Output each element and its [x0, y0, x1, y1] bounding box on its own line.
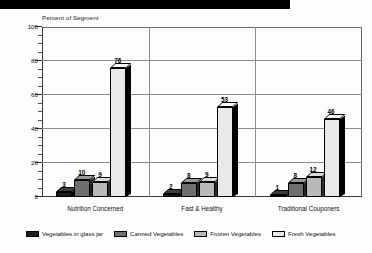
gridline: [42, 128, 362, 129]
bar-value-label: 46: [328, 108, 335, 115]
y-tick-minor: [38, 179, 42, 180]
bar-side-face: [233, 104, 238, 197]
y-tick-minor: [38, 52, 42, 53]
bar: 9: [92, 182, 108, 197]
y-tick-minor: [38, 145, 42, 146]
bar-value-label: 3: [62, 181, 66, 188]
category-label: Nutrition Concerned: [42, 205, 149, 212]
bar-front-face: [288, 183, 304, 197]
y-tick-minor: [38, 103, 42, 104]
legend-label: Canned Vegetables: [130, 230, 183, 237]
y-tick-minor: [38, 111, 42, 112]
bar-value-label: 12: [310, 166, 317, 173]
bar-front-face: [270, 195, 286, 197]
plot-area: 31097628953181246: [42, 27, 362, 197]
bar: 46: [324, 119, 340, 197]
legend-label: Vegetables in glass jar: [42, 230, 103, 237]
gridline: [42, 162, 362, 163]
bar: 10: [74, 180, 90, 197]
y-tick-label: 80: [20, 57, 38, 64]
bar: 12: [306, 177, 322, 197]
bar-front-face: [199, 182, 215, 197]
bar-side-face: [126, 64, 131, 197]
y-tick-minor: [38, 137, 42, 138]
bar-value-label: 53: [221, 96, 228, 103]
y-tick-minor: [38, 188, 42, 189]
bar-value-label: 1: [276, 184, 280, 191]
bar: 9: [199, 182, 215, 197]
y-tick-label: 40: [20, 125, 38, 132]
bar-value-label: 76: [114, 57, 121, 64]
chart-screenshot: Percent of Segment 31097628953181246 020…: [0, 0, 372, 253]
y-tick-minor: [38, 120, 42, 121]
y-tick-minor: [38, 86, 42, 87]
y-tick-minor: [38, 77, 42, 78]
y-tick-minor: [38, 35, 42, 36]
bar: 76: [110, 68, 126, 197]
bar-value-label: 9: [205, 171, 209, 178]
bar-front-face: [324, 119, 340, 197]
bar-front-face: [181, 183, 197, 197]
title-banner-fill: [0, 0, 290, 9]
bar: 8: [288, 183, 304, 197]
y-tick-minor: [38, 171, 42, 172]
title-banner: [0, 0, 290, 9]
bar-front-face: [56, 192, 72, 197]
bar-front-face: [217, 107, 233, 197]
bar: 3: [56, 192, 72, 197]
bar: 53: [217, 107, 233, 197]
bar-front-face: [92, 182, 108, 197]
group-separator: [149, 27, 150, 197]
y-tick-label: 0: [20, 193, 38, 200]
bar-side-face: [340, 115, 345, 197]
legend-item[interactable]: Fresh Vegetables: [272, 230, 335, 237]
legend-item[interactable]: Canned Vegetables: [114, 230, 183, 237]
legend-swatch: [272, 231, 285, 237]
y-tick-minor: [38, 69, 42, 70]
legend-swatch: [194, 231, 207, 237]
legend-swatch: [26, 231, 39, 237]
legend-swatch: [114, 231, 127, 237]
chart-legend: Vegetables in glass jarCanned Vegetables…: [26, 230, 346, 237]
bar-value-label: 8: [187, 172, 191, 179]
legend-item[interactable]: Frozen Vegetables: [194, 230, 261, 237]
bar-front-face: [110, 68, 126, 197]
y-tick-minor: [38, 154, 42, 155]
gridline: [42, 60, 362, 61]
legend-label: Fresh Vegetables: [288, 230, 335, 237]
bar-front-face: [306, 177, 322, 197]
category-label: Traditional Couponers: [255, 205, 362, 212]
bar-front-face: [163, 194, 179, 197]
bar: 8: [181, 183, 197, 197]
y-tick-label: 20: [20, 159, 38, 166]
bar-value-label: 9: [98, 171, 102, 178]
y-axis-title: Percent of Segment: [42, 14, 99, 21]
legend-item[interactable]: Vegetables in glass jar: [26, 230, 103, 237]
y-tick-minor: [38, 43, 42, 44]
y-axis-line: [42, 27, 43, 197]
bar-value-label: 10: [78, 169, 85, 176]
gridline: [42, 94, 362, 95]
bar: 1: [270, 195, 286, 197]
bar-value-label: 8: [294, 172, 298, 179]
category-label: Fast & Healthy: [149, 205, 256, 212]
y-tick-label: 60: [20, 91, 38, 98]
bar-value-label: 2: [169, 183, 173, 190]
group-separator: [255, 27, 256, 197]
bar-front-face: [74, 180, 90, 197]
plot-top-border: [42, 27, 362, 28]
legend-label: Frozen Vegetables: [210, 230, 261, 237]
plot-right-border: [361, 27, 362, 197]
bar: 2: [163, 194, 179, 197]
y-tick-label: 100: [20, 23, 38, 30]
